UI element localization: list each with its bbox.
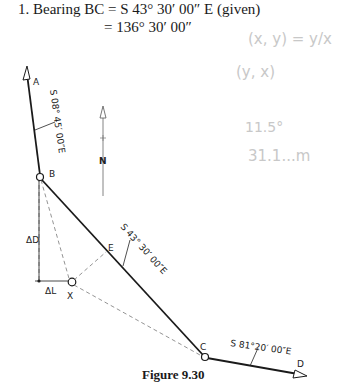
bearing-ab: S 08° 45′ 00″E (48, 89, 67, 154)
arrow-d-icon (293, 370, 307, 378)
line-ab (27, 74, 40, 175)
station-b (37, 174, 44, 181)
north-label: N (99, 156, 107, 166)
dashed-xc (74, 285, 200, 355)
label-delta-l: ΔL (45, 286, 56, 296)
handwritten-notes: (x, y) = y/x (y, x) 11.5° 31.1...m (236, 30, 332, 165)
point-x (68, 278, 76, 286)
svg-text:31.1...m: 31.1...m (248, 147, 310, 165)
bearing-bc: S 43° 30′ 00″E (119, 222, 170, 277)
label-delta-d: ΔD (26, 235, 39, 245)
label-e: E (108, 243, 114, 253)
svg-text:(x, y) = y/x: (x, y) = y/x (248, 30, 332, 48)
svg-text:11.5°: 11.5° (245, 119, 283, 135)
label-x: X (67, 291, 73, 301)
label-a: A (33, 77, 40, 87)
label-c: C (200, 342, 206, 352)
label-b: B (49, 169, 55, 179)
station-c (202, 354, 209, 361)
traverse-diagram: N A B C D E X ΔD ΔL S 08° 45′ 00″E S 43°… (0, 0, 346, 386)
label-d: D (297, 359, 304, 369)
svg-text:(y, x): (y, x) (236, 63, 275, 81)
dashed-xe (74, 252, 106, 280)
north-arrow-icon (100, 106, 106, 196)
figure-caption: Figure 9.30 (142, 367, 205, 383)
bearing-cd: S 81°20′ 00″E (230, 338, 292, 356)
arrow-a-icon (23, 66, 30, 80)
